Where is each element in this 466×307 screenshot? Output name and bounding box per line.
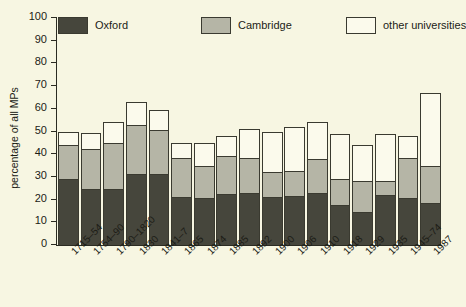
bar-segment-other [284, 127, 305, 171]
y-tick-20: 20 [51, 199, 57, 200]
y-tick-90: 90 [51, 40, 57, 41]
y-tick-label-40: 40 [21, 146, 47, 158]
y-tick-60: 60 [51, 108, 57, 109]
bar-1900[interactable] [262, 132, 283, 246]
bar-segment-cambridge [81, 149, 102, 190]
bar-1906[interactable] [284, 127, 305, 245]
bar-1874[interactable] [194, 143, 215, 245]
y-axis-title-text: percentage of all MPs [8, 68, 20, 208]
y-tick-label-0: 0 [21, 237, 47, 249]
bar-segment-cambridge [58, 145, 79, 179]
bar-segment-other [375, 134, 396, 182]
y-tick-label-50: 50 [21, 124, 47, 136]
y-tick-10: 10 [51, 221, 57, 222]
bar-segment-other [171, 143, 192, 158]
y-tick-label-80: 80 [21, 55, 47, 67]
x-axis-line [56, 245, 442, 246]
y-tick-50: 50 [51, 131, 57, 132]
bar-segment-other [262, 132, 283, 173]
bar-1945–74[interactable] [398, 136, 419, 245]
bar-segment-oxford [58, 179, 79, 245]
bar-segment-other [352, 145, 373, 181]
bar-segment-other [81, 133, 102, 149]
bar-segment-cambridge [352, 181, 373, 212]
bar-1987[interactable] [420, 93, 441, 245]
bar-segment-cambridge [103, 143, 124, 190]
y-tick-label-30: 30 [21, 169, 47, 181]
y-tick-label-10: 10 [21, 214, 47, 226]
bar-segment-other [216, 136, 237, 156]
bar-segment-cambridge [375, 181, 396, 195]
bar-segment-cambridge [171, 158, 192, 198]
bar-segment-other [330, 134, 351, 179]
bar-segment-cambridge [262, 172, 283, 197]
bar-segment-cambridge [216, 156, 237, 193]
bar-segment-cambridge [149, 130, 170, 173]
plot-area: 0102030405060708090100 1715–541754–90179… [57, 18, 442, 245]
y-tick-30: 30 [51, 176, 57, 177]
y-axis-line [56, 18, 57, 246]
bar-segment-cambridge [398, 158, 419, 199]
bar-segment-cambridge [284, 171, 305, 196]
bar-1715–54[interactable] [58, 132, 79, 246]
bar-segment-cambridge [420, 166, 441, 203]
y-axis-title: percentage of all MPs [8, 0, 20, 68]
bar-segment-other [307, 122, 328, 158]
bar-segment-other [58, 132, 79, 146]
y-tick-0: 0 [51, 244, 57, 245]
bar-segment-cambridge [126, 125, 147, 174]
bar-segment-cambridge [330, 179, 351, 205]
bar-1910[interactable] [307, 122, 328, 245]
bar-1918[interactable] [330, 134, 351, 245]
bar-segment-other [239, 129, 260, 157]
bar-1935[interactable] [375, 134, 396, 245]
y-tick-label-100: 100 [21, 10, 47, 22]
bar-1892[interactable] [239, 129, 260, 245]
bar-1885[interactable] [216, 136, 237, 245]
y-tick-label-70: 70 [21, 78, 47, 90]
bar-1929[interactable] [352, 145, 373, 245]
bar-segment-cambridge [194, 166, 215, 199]
bar-segment-other [149, 110, 170, 130]
bar-segment-other [126, 102, 147, 125]
bar-segment-other [194, 143, 215, 166]
y-tick-label-20: 20 [21, 192, 47, 204]
y-tick-80: 80 [51, 62, 57, 63]
bar-segment-other [398, 136, 419, 158]
bar-segment-cambridge [307, 159, 328, 193]
y-tick-40: 40 [51, 153, 57, 154]
y-tick-label-90: 90 [21, 33, 47, 45]
bar-segment-cambridge [239, 158, 260, 193]
y-tick-100: 100 [51, 17, 57, 18]
y-tick-70: 70 [51, 85, 57, 86]
y-tick-label-60: 60 [21, 101, 47, 113]
bar-segment-other [420, 93, 441, 166]
bar-segment-other [103, 122, 124, 142]
